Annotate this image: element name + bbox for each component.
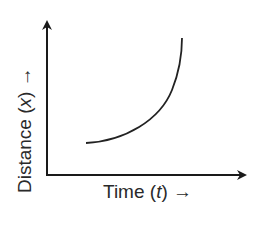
x-axis-label: Time (t) →	[103, 181, 192, 203]
y-axis-label: Distance (x) →	[14, 67, 36, 193]
distance-time-curve	[86, 38, 182, 143]
